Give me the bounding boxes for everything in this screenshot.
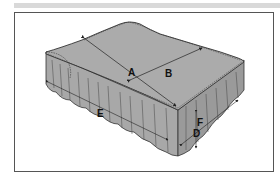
label-e: E bbox=[97, 108, 104, 119]
bed-skirt-illustration: A B E F D bbox=[0, 0, 280, 186]
label-b: B bbox=[165, 68, 172, 79]
label-d: D bbox=[193, 128, 200, 139]
label-a: A bbox=[128, 67, 135, 78]
label-f: F bbox=[197, 117, 203, 128]
